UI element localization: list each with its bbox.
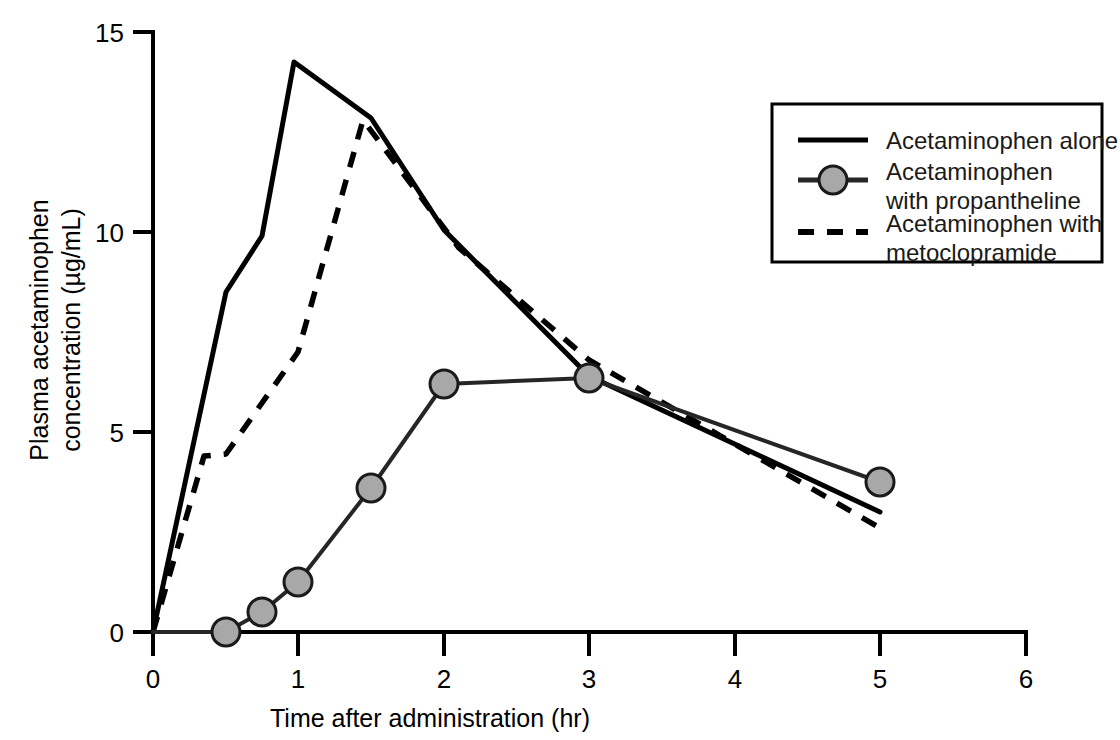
x-tick-labels: 0 1 2 3 4 5 6 [146,664,1033,694]
data-point-marker [284,568,312,596]
data-point-marker [357,474,385,502]
x-tick-label-4: 4 [728,664,742,694]
y-tick-label-10: 10 [95,218,124,248]
x-tick-label-5: 5 [873,664,887,694]
y-tick-marks [133,32,153,632]
y-tick-labels: 15 10 5 0 [95,18,124,648]
x-tick-label-1: 1 [291,664,305,694]
y-axis-title-line2: concentration (µg/mL) [57,208,85,452]
legend-label-propantheline-line1: Acetaminophen [886,158,1053,185]
data-point-marker [430,370,458,398]
y-tick-label-15: 15 [95,18,124,48]
legend-label-metoclopramide-line2: metoclopramide [886,239,1057,266]
x-axis-title: Time after administration (hr) [270,704,590,732]
x-tick-label-3: 3 [582,664,596,694]
legend-label-metoclopramide-line1: Acetaminophen with [886,210,1102,237]
series-line-propantheline [153,378,880,632]
y-tick-label-5: 5 [110,418,124,448]
chart-legend: Acetaminophen alone Acetaminophen with p… [772,104,1118,266]
data-point-marker [575,364,603,392]
plot-canvas: 15 10 5 0 0 1 2 3 4 5 6 Time after admin… [0,0,1120,740]
data-point-marker [248,598,276,626]
x-tick-marks [153,632,1026,656]
x-tick-label-6: 6 [1019,664,1033,694]
x-tick-label-0: 0 [146,664,160,694]
data-point-marker [212,618,240,646]
y-axis-title-line1: Plasma acetaminophen [25,199,53,460]
x-tick-label-2: 2 [437,664,451,694]
data-point-marker [866,468,894,496]
chart-figure: 15 10 5 0 0 1 2 3 4 5 6 Time after admin… [0,0,1120,740]
series-markers-propantheline [212,364,894,646]
y-tick-label-0: 0 [110,618,124,648]
legend-label-alone: Acetaminophen alone [886,127,1118,154]
legend-swatch-circle-marker [819,166,847,194]
